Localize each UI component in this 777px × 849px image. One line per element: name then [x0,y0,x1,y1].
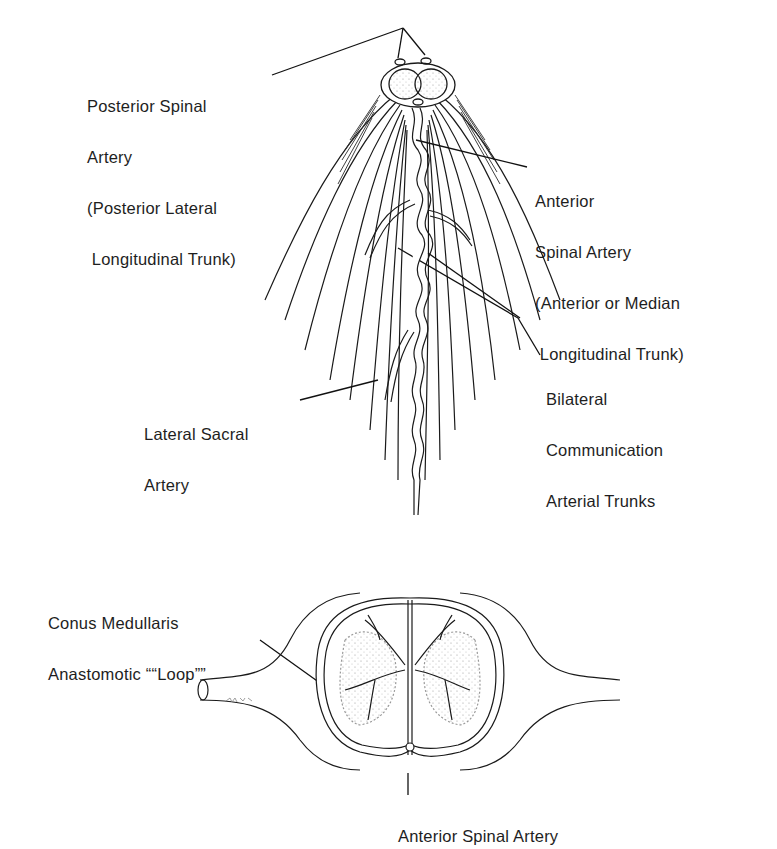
label-line: Conus Medullaris [48,615,206,632]
label-line: Communication [546,442,663,459]
label-line: Artery [144,477,249,494]
label-line: (Anterior or Median [535,295,684,312]
label-line: Artery [87,149,236,166]
label-line: Anterior [535,193,684,210]
label-line: Anastomotic ““Loop”” [48,666,206,683]
label-line: Lateral Sacral [144,426,249,443]
label-line: Anterior Spinal Artery [398,828,558,845]
label-line: Posterior Spinal [87,98,236,115]
label-line: Spinal Artery [535,244,684,261]
label-line: Longitudinal Trunk) [87,251,236,268]
label-posterior-spinal-artery: Posterior Spinal Artery (Posterior Later… [87,64,236,302]
conus-cross-section [198,593,620,770]
label-line: Arterial Trunks [546,493,663,510]
label-line: (Posterior Lateral [87,200,236,217]
label-lateral-sacral-artery: Lateral Sacral Artery [144,392,249,528]
label-bilateral-communication: Bilateral Communication Arterial Trunks [546,357,663,544]
label-anterior-spinal-artery-lower: Anterior Spinal Artery [398,794,558,849]
label-conus-anastomotic-loop: Conus Medullaris Anastomotic ““Loop”” [48,581,206,717]
upper-cord-section [381,58,455,107]
label-line: Bilateral [546,391,663,408]
